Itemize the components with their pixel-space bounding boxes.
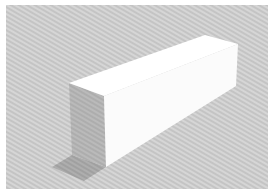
- render-canvas: [6, 5, 268, 189]
- box-render: [6, 5, 268, 189]
- front-face: [69, 83, 106, 167]
- image-frame: 3D rectangular prism (box) render: [0, 0, 272, 193]
